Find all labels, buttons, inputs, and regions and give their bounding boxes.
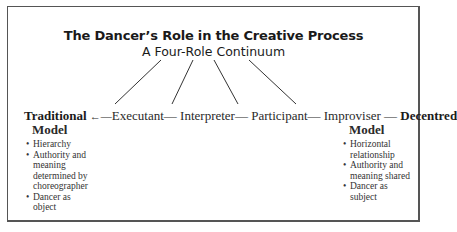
bullet-item: Authority and meaning determined by chor…: [26, 150, 88, 192]
connector-dash: —: [384, 108, 397, 123]
role-interpreter: Interpreter: [180, 108, 235, 123]
role-executant: Executant: [112, 108, 164, 123]
connector-dash: —: [308, 108, 321, 123]
left-arrow: ←—: [90, 110, 112, 122]
bullet-item: Dancer as object: [26, 192, 88, 213]
connector-dash: —: [235, 108, 248, 123]
bullet-item: Authority and meaning shared: [343, 160, 413, 181]
left-pole-bullets: Hierarchy Authority and meaning determin…: [26, 139, 88, 213]
left-pole-subtitle: Model: [32, 122, 67, 138]
connector-dash: —: [164, 108, 177, 123]
role-participant: Participant: [251, 108, 307, 123]
left-pole-title: Traditional: [24, 108, 87, 123]
right-pole-subtitle: Model: [349, 122, 384, 138]
continuum-row: Traditional ←—Executant— Interpreter— Pa…: [24, 108, 457, 124]
role-improviser: Improviser: [324, 108, 381, 123]
bullet-item: Hierarchy: [26, 139, 88, 150]
bullet-item: Dancer as subject: [343, 181, 413, 202]
right-pole-bullets: Horizontal relationship Authority and me…: [343, 139, 413, 202]
bullet-item: Horizontal relationship: [343, 139, 413, 160]
right-pole-title: Decentred: [400, 108, 457, 123]
